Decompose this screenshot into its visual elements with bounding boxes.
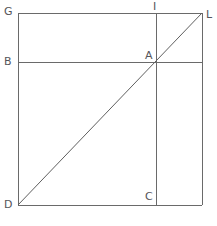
vertex-label-d: D	[4, 199, 12, 210]
vertex-label-l: L	[206, 9, 212, 20]
intersection-label-a: A	[145, 50, 153, 61]
geometry-diagram-canvas: G I L B A D C	[0, 0, 217, 226]
vertex-label-g: G	[4, 6, 13, 17]
diagonal-line	[18, 13, 202, 205]
point-label-i: I	[153, 1, 156, 12]
geometry-figure	[0, 0, 217, 226]
point-label-b: B	[4, 56, 12, 67]
point-label-c: C	[145, 191, 153, 202]
